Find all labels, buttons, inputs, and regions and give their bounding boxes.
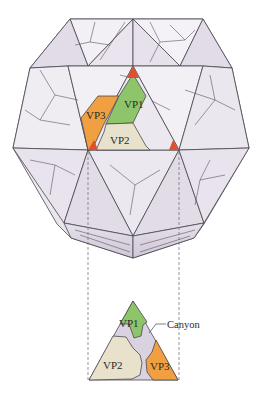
capsid-diagram: VP1 VP3 VP2 VP1 VP2 VP3 Canyon bbox=[0, 0, 261, 393]
icosahedral-capsid: VP1 VP3 VP2 bbox=[13, 19, 249, 258]
inset-vp3-label: VP3 bbox=[150, 360, 170, 372]
inset-vp1-label: VP1 bbox=[119, 317, 139, 329]
canyon-leader-line bbox=[149, 324, 166, 333]
capsid-vp3-label: VP3 bbox=[86, 109, 106, 121]
asymmetric-unit-inset: VP1 VP2 VP3 Canyon bbox=[89, 301, 200, 380]
inset-vp2-label: VP2 bbox=[103, 359, 123, 371]
canyon-label: Canyon bbox=[167, 319, 200, 330]
capsid-vp1-label: VP1 bbox=[124, 98, 144, 110]
capsid-vp2-label: VP2 bbox=[110, 134, 130, 146]
